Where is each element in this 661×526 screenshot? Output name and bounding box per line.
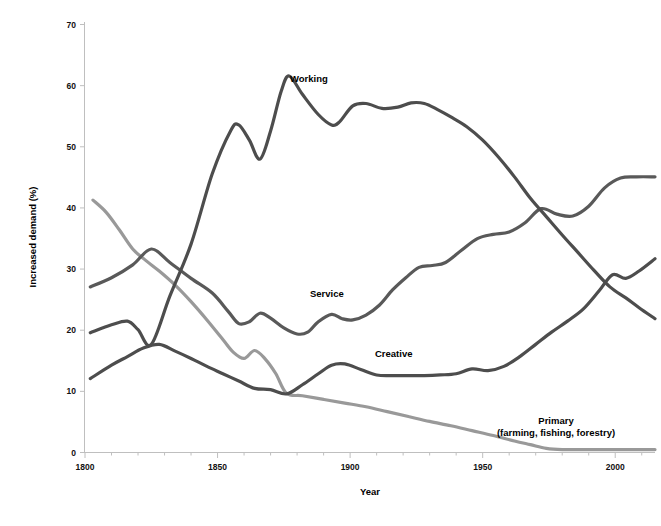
y-tick-label: 20 <box>67 325 77 335</box>
series-label-primary-detail: (farming, fishing, forestry) <box>497 427 615 438</box>
y-tick-label: 10 <box>67 386 77 396</box>
y-tick-label: 0 <box>71 448 76 458</box>
y-axis-title: Increased demand (%) <box>27 187 38 288</box>
y-tick-label: 70 <box>67 20 77 30</box>
series-line-creative <box>90 259 655 394</box>
y-tick-label: 30 <box>67 264 77 274</box>
x-axis-title: Year <box>360 486 380 497</box>
y-tick-label: 40 <box>67 203 77 213</box>
series-line-working <box>90 76 655 346</box>
x-tick-label: 1950 <box>473 462 492 472</box>
y-tick-group: 010203040506070 <box>67 20 85 458</box>
line-chart-svg: 010203040506070 18001850190019502000 Yea… <box>0 0 661 526</box>
series-label-working: Working <box>290 73 328 84</box>
series-label-primary: Primary <box>538 415 574 426</box>
y-tick-label: 60 <box>67 81 77 91</box>
series-label-service: Service <box>310 288 344 299</box>
x-tick-group: 18001850190019502000 <box>76 453 625 473</box>
axes-group <box>85 22 656 453</box>
x-tick-label: 1850 <box>208 462 227 472</box>
x-tick-label: 2000 <box>606 462 625 472</box>
y-tick-label: 50 <box>67 142 77 152</box>
series-group <box>90 76 655 450</box>
chart-container: 010203040506070 18001850190019502000 Yea… <box>0 0 661 526</box>
series-label-creative: Creative <box>375 348 413 359</box>
x-tick-label: 1900 <box>341 462 360 472</box>
series-line-primary <box>93 200 655 450</box>
series-line-service <box>90 177 655 335</box>
x-minor-tick-group <box>112 453 642 456</box>
x-tick-label: 1800 <box>76 462 95 472</box>
